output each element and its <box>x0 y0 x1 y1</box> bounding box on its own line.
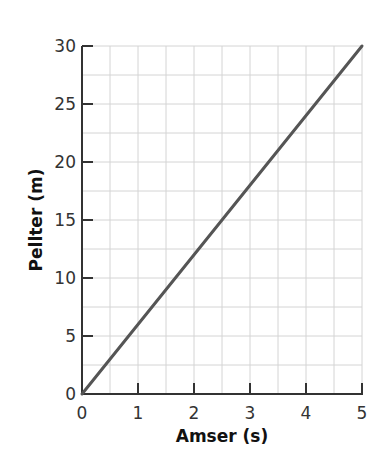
y-tick-labels: 051015202530 <box>54 36 76 404</box>
y-tick-label: 5 <box>65 326 76 346</box>
distance-time-chart: 012345 051015202530 Amser (s) Pellter (m… <box>0 0 392 462</box>
x-tick-label: 5 <box>357 403 368 423</box>
x-tick-label: 4 <box>301 403 312 423</box>
y-tick-label: 15 <box>54 210 76 230</box>
x-tick-label: 2 <box>189 403 200 423</box>
y-tick-label: 10 <box>54 268 76 288</box>
x-tick-label: 3 <box>245 403 256 423</box>
y-tick-label: 20 <box>54 152 76 172</box>
x-tick-label: 1 <box>133 403 144 423</box>
y-tick-label: 25 <box>54 94 76 114</box>
x-tick-labels: 012345 <box>77 403 368 423</box>
y-tick-label: 30 <box>54 36 76 56</box>
x-tick-label: 0 <box>77 403 88 423</box>
y-tick-label: 0 <box>65 384 76 404</box>
y-axis-title: Pellter (m) <box>26 169 46 272</box>
x-axis-title: Amser (s) <box>176 426 268 446</box>
